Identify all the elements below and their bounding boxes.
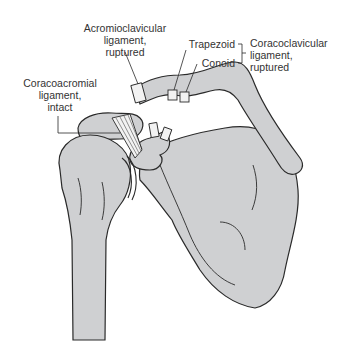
coracoclavicular-ligament-label: Coracoclavicular ligament, ruptured [250,37,347,73]
humerus [59,135,130,340]
conoid-label: Conoid [180,57,235,69]
trapezoid-label: Trapezoid [180,38,235,50]
acromioclavicular-ligament-label: Acromioclavicular ligament, ruptured [70,22,180,58]
coracoacromial-ligament-label: Coracoacromial ligament, intact [10,77,110,113]
